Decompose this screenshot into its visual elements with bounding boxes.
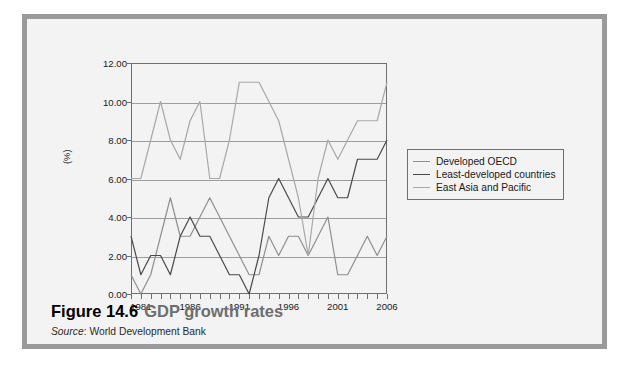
x-tick-mark	[180, 294, 181, 299]
y-tick-label: 8.00	[83, 135, 127, 146]
source-separator: :	[84, 326, 87, 337]
y-tick-mark	[127, 256, 131, 257]
x-tick-mark	[249, 294, 250, 299]
legend-color-swatch	[413, 174, 430, 175]
legend-item: Developed OECD	[413, 155, 556, 168]
x-tick-mark	[229, 294, 230, 299]
y-axis-title: (%)	[61, 149, 72, 164]
x-tick-mark	[220, 294, 221, 299]
x-tick-mark	[387, 294, 388, 299]
x-tick-mark	[338, 294, 339, 299]
y-tick-label: 6.00	[83, 173, 127, 184]
figure-page: (%) 0.002.004.006.008.0010.0012.00 19811…	[0, 0, 631, 382]
y-tick-label: 4.00	[83, 212, 127, 223]
figure-number: Figure 14.6	[51, 302, 138, 320]
x-tick-mark	[318, 294, 319, 299]
source-text: World Development Bank	[89, 326, 206, 337]
chart-legend: Developed OECDLeast-developed countriesE…	[407, 149, 564, 200]
x-tick-mark	[190, 294, 191, 299]
x-tick-mark	[328, 294, 329, 299]
figure-panel-inner: (%) 0.002.004.006.008.0010.0012.00 19811…	[27, 19, 602, 344]
legend-item-label: Developed OECD	[436, 156, 517, 167]
y-tick-mark	[127, 179, 131, 180]
x-tick-mark	[377, 294, 378, 299]
series-line	[131, 198, 387, 294]
y-tick-mark	[127, 217, 131, 218]
legend-item-label: East Asia and Pacific	[436, 182, 531, 193]
x-tick-mark	[131, 294, 132, 299]
x-tick-mark	[367, 294, 368, 299]
y-tick-mark	[127, 63, 131, 64]
caption-heading: Figure 14.6GDP growth rates	[51, 302, 571, 321]
x-tick-mark	[289, 294, 290, 299]
x-tick-mark	[151, 294, 152, 299]
series-line	[131, 140, 387, 294]
x-tick-mark	[210, 294, 211, 299]
x-tick-mark	[279, 294, 280, 299]
x-tick-mark	[161, 294, 162, 299]
x-tick-mark	[357, 294, 358, 299]
source-label: Source	[51, 326, 84, 337]
figure-caption: Figure 14.6GDP growth rates Source: Worl…	[51, 302, 571, 337]
x-tick-mark	[239, 294, 240, 299]
x-tick-mark	[259, 294, 260, 299]
x-tick-mark	[170, 294, 171, 299]
x-tick-mark	[269, 294, 270, 299]
x-tick-mark	[298, 294, 299, 299]
legend-item: Least-developed countries	[413, 168, 556, 181]
x-tick-mark	[141, 294, 142, 299]
y-tick-label: 10.00	[83, 96, 127, 107]
x-tick-mark	[308, 294, 309, 299]
figure-panel: (%) 0.002.004.006.008.0010.0012.00 19811…	[22, 14, 607, 349]
legend-item-label: Least-developed countries	[436, 169, 556, 180]
figure-source: Source: World Development Bank	[51, 326, 571, 337]
series-lines	[131, 63, 387, 294]
figure-title: GDP growth rates	[144, 302, 283, 320]
x-tick-mark	[348, 294, 349, 299]
y-tick-label: 12.00	[83, 58, 127, 69]
legend-color-swatch	[413, 187, 430, 188]
series-line	[131, 82, 387, 255]
legend-item: East Asia and Pacific	[413, 181, 556, 194]
x-tick-mark	[200, 294, 201, 299]
legend-color-swatch	[413, 161, 430, 162]
y-tick-mark	[127, 102, 131, 103]
y-tick-label: 0.00	[83, 289, 127, 300]
y-tick-label: 2.00	[83, 250, 127, 261]
y-tick-mark	[127, 140, 131, 141]
y-axis-tick-labels: 0.002.004.006.008.0010.0012.00	[79, 63, 127, 294]
